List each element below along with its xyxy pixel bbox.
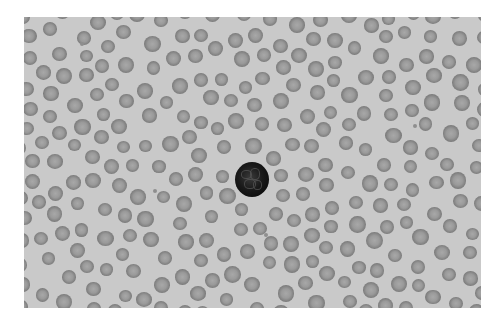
- red-blood-cell: [205, 273, 220, 288]
- red-blood-cell: [427, 207, 442, 221]
- red-blood-cell: [67, 98, 82, 113]
- red-blood-cell: [147, 61, 160, 74]
- red-blood-cell: [425, 290, 441, 305]
- red-blood-cell: [400, 216, 413, 228]
- red-blood-cell: [318, 158, 332, 172]
- red-blood-cell: [56, 68, 73, 85]
- red-blood-cell: [276, 189, 290, 202]
- red-blood-cell: [266, 151, 281, 166]
- red-blood-cell: [169, 172, 183, 186]
- red-blood-cell: [357, 106, 372, 121]
- red-blood-cell: [239, 81, 253, 94]
- red-blood-cell: [379, 30, 392, 43]
- red-blood-cell: [425, 17, 441, 24]
- red-blood-cell: [296, 187, 310, 201]
- red-blood-cell: [424, 30, 437, 42]
- red-blood-cell: [108, 304, 123, 308]
- red-blood-cell: [55, 17, 70, 19]
- red-blood-cell: [359, 304, 373, 308]
- red-blood-cell: [406, 183, 419, 197]
- red-blood-cell: [263, 17, 277, 26]
- red-blood-cell: [278, 285, 294, 301]
- red-blood-cell: [217, 140, 231, 154]
- red-blood-cell: [216, 170, 229, 183]
- red-blood-cell: [472, 139, 481, 152]
- red-blood-cell: [188, 167, 203, 182]
- red-blood-cell: [363, 282, 380, 298]
- red-blood-cell: [274, 169, 288, 182]
- red-blood-cell: [419, 117, 433, 131]
- red-blood-cell: [339, 136, 353, 149]
- red-blood-cell: [116, 248, 130, 261]
- red-blood-cell: [24, 51, 37, 65]
- red-blood-cell: [152, 160, 165, 173]
- red-blood-cell: [283, 236, 299, 252]
- red-blood-cell: [144, 36, 161, 52]
- red-blood-cell: [87, 302, 101, 308]
- red-blood-cell: [308, 295, 325, 308]
- red-blood-cell: [342, 118, 356, 131]
- red-blood-cell: [452, 74, 469, 91]
- red-blood-cell: [97, 108, 110, 121]
- red-blood-cell: [255, 72, 269, 85]
- red-blood-cell: [24, 17, 30, 24]
- red-blood-cell: [86, 282, 100, 296]
- red-blood-cell: [24, 277, 30, 291]
- red-blood-cell: [175, 29, 189, 44]
- red-blood-cell: [327, 33, 342, 48]
- red-blood-cell: [52, 126, 67, 140]
- red-blood-cell: [440, 158, 454, 171]
- red-blood-cell: [474, 196, 481, 211]
- red-blood-cell: [191, 148, 206, 164]
- red-blood-cell: [234, 51, 250, 67]
- red-blood-cell: [24, 122, 34, 135]
- red-blood-cell: [380, 220, 394, 234]
- red-blood-cell: [454, 95, 470, 111]
- red-blood-cell: [104, 159, 119, 174]
- red-blood-cell: [24, 191, 28, 205]
- red-blood-cell: [55, 226, 70, 241]
- red-blood-cell: [403, 140, 418, 154]
- red-blood-cell: [463, 246, 476, 260]
- red-blood-cell: [466, 228, 479, 241]
- red-blood-cell: [194, 29, 208, 42]
- red-blood-cell: [378, 298, 393, 308]
- red-blood-cell: [362, 175, 378, 192]
- red-blood-cell: [300, 109, 315, 124]
- red-blood-cell: [453, 194, 468, 208]
- red-blood-cell: [126, 264, 142, 278]
- red-blood-cell: [359, 143, 372, 156]
- red-blood-cell: [24, 141, 26, 155]
- red-blood-cell: [349, 216, 365, 233]
- red-blood-cell: [425, 147, 439, 160]
- red-blood-cell: [24, 233, 29, 247]
- red-blood-cell: [298, 167, 314, 182]
- red-blood-cell: [74, 119, 90, 135]
- red-blood-cell: [194, 254, 207, 267]
- red-blood-cell: [157, 191, 170, 203]
- platelet: [80, 42, 84, 46]
- red-blood-cell: [188, 49, 203, 63]
- platelet: [413, 124, 417, 128]
- red-blood-cell: [182, 130, 197, 144]
- red-blood-cell: [42, 252, 55, 265]
- red-blood-cell: [273, 305, 288, 308]
- red-blood-cell: [245, 138, 261, 154]
- red-blood-cell: [397, 198, 411, 211]
- red-blood-cell: [448, 17, 463, 19]
- red-blood-cell: [158, 251, 173, 265]
- red-blood-cell: [477, 31, 481, 44]
- red-blood-cell: [284, 256, 300, 272]
- platelet: [153, 189, 157, 193]
- red-blood-cell: [250, 302, 264, 308]
- red-blood-cell: [200, 186, 214, 199]
- red-blood-cell: [237, 17, 251, 21]
- red-blood-cell: [176, 196, 192, 212]
- red-blood-cell: [52, 47, 67, 61]
- red-blood-cell: [286, 78, 301, 92]
- red-blood-cell: [452, 31, 467, 45]
- red-blood-cell: [287, 214, 301, 227]
- red-blood-cell: [85, 150, 100, 164]
- red-blood-cell: [385, 128, 402, 144]
- red-blood-cell: [205, 17, 220, 22]
